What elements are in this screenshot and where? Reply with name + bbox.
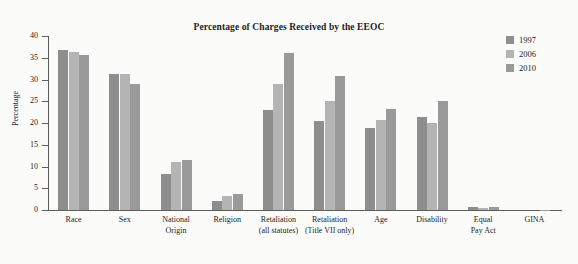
chart-title: Percentage of Charges Received by the EE… (0, 22, 578, 32)
bar (58, 50, 68, 211)
legend-label: 1997 (519, 35, 536, 45)
bar (69, 52, 79, 210)
bar (376, 120, 386, 210)
bar (120, 74, 130, 210)
bar-group (58, 36, 89, 210)
bar-group (314, 36, 345, 210)
x-axis-label-line1: GINA (524, 215, 544, 224)
x-axis-label: GINA (496, 215, 572, 226)
y-axis-tick-label: 0 (14, 205, 38, 214)
bar (417, 117, 427, 210)
x-axis-label-line1: Equal (474, 215, 493, 224)
x-axis-label-line2: Pay Act (445, 226, 521, 237)
bar (325, 101, 335, 210)
bar (79, 55, 89, 210)
bar-group (365, 36, 396, 210)
bar (478, 208, 488, 210)
chart-figure: Percentage of Charges Received by the EE… (0, 0, 578, 264)
legend-item: 2010 (506, 61, 536, 75)
x-axis-label-line2: Origin (138, 226, 214, 237)
plot-area (48, 36, 560, 210)
y-axis-tick-label: 20 (14, 118, 38, 127)
y-axis-tick-label: 40 (14, 31, 38, 40)
legend-swatch-icon (506, 64, 514, 72)
y-axis-tick-label: 15 (14, 140, 38, 149)
y-axis-tick-label: 10 (14, 162, 38, 171)
x-axis-line (48, 210, 562, 211)
bar (171, 162, 181, 210)
bar (365, 128, 375, 210)
bar-group (212, 36, 243, 210)
bar (263, 110, 273, 210)
legend-item: 2006 (506, 47, 536, 61)
bar (335, 76, 345, 210)
legend-label: 2006 (519, 49, 536, 59)
legend-swatch-icon (506, 36, 514, 44)
x-axis-label-line1: Sex (119, 215, 131, 224)
bar (212, 201, 222, 210)
chart-legend: 199720062010 (506, 33, 536, 75)
bar (182, 160, 192, 210)
bar (468, 207, 478, 210)
x-axis-label-line1: Religion (213, 215, 241, 224)
bar (109, 74, 119, 210)
bar-group (263, 36, 294, 210)
bar (438, 101, 448, 210)
bar-group (161, 36, 192, 210)
bar-group (468, 36, 499, 210)
y-axis-tick-label: 25 (14, 96, 38, 105)
y-axis-tick-label: 35 (14, 53, 38, 62)
bar (222, 196, 232, 210)
bar (427, 123, 437, 210)
legend-swatch-icon (506, 50, 514, 58)
x-axis-label-line2: (Title VII only) (292, 226, 368, 237)
legend-item: 1997 (506, 33, 536, 47)
legend-label: 2010 (519, 63, 536, 73)
bar-group (109, 36, 140, 210)
bar (489, 207, 499, 210)
bar (273, 84, 283, 210)
bar (314, 121, 324, 210)
x-axis-label-line1: Age (374, 215, 387, 224)
y-axis-tick-label: 5 (14, 183, 38, 192)
bar (130, 84, 140, 210)
bar (386, 109, 396, 210)
bar (233, 194, 243, 210)
y-axis-tick (42, 210, 48, 211)
x-axis-label-line1: National (162, 215, 190, 224)
bar-group (417, 36, 448, 210)
x-axis-label-line1: Race (66, 215, 82, 224)
y-axis-tick-label: 30 (14, 75, 38, 84)
x-axis-label-line1: Disability (416, 215, 448, 224)
bar (161, 174, 171, 210)
bar (284, 53, 294, 210)
